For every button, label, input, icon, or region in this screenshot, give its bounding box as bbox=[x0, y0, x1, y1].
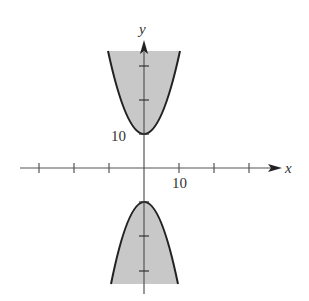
x-axis-label: x bbox=[284, 160, 292, 176]
y-axis-label: y bbox=[137, 21, 146, 37]
graph-figure: y x 10 10 bbox=[0, 0, 309, 301]
coordinate-plane: y x 10 10 bbox=[0, 0, 309, 301]
x-tick-label-10: 10 bbox=[172, 175, 187, 191]
y-tick-label-10: 10 bbox=[111, 128, 126, 144]
